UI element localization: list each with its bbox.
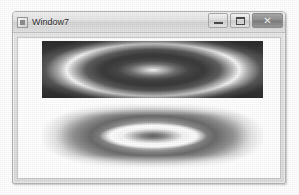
caption-button-group: ✕ xyxy=(208,13,283,28)
scan-artifact-fragment-left: · · · · · · xyxy=(4,0,37,4)
minimize-button[interactable] xyxy=(208,13,228,28)
scan-artifact-fragment-right: · ·· ·· · xyxy=(74,0,101,4)
app-icon xyxy=(17,17,28,28)
top-plot-vignette xyxy=(42,41,263,98)
bottom-plot-edge-fade xyxy=(42,104,263,168)
maximize-button[interactable] xyxy=(230,13,250,28)
close-button[interactable]: ✕ xyxy=(252,13,283,28)
window-title: Window7 xyxy=(32,17,69,28)
window-client-area xyxy=(17,37,281,179)
minimize-icon xyxy=(214,22,223,24)
bottom-plot-image xyxy=(42,104,263,168)
window-titlebar[interactable]: Window7 ✕ xyxy=(13,12,285,33)
maximize-icon xyxy=(236,17,245,25)
application-window[interactable]: Window7 ✕ xyxy=(12,11,286,184)
top-plot-image xyxy=(42,41,263,98)
close-icon: ✕ xyxy=(253,14,282,27)
scan-artifact-top-text: · · · · · · · ·· ·· · xyxy=(0,0,299,9)
